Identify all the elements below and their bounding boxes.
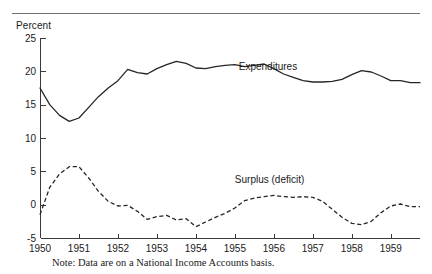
- series-annotation-label: Expenditures: [239, 61, 297, 72]
- y-tick-label: 25: [25, 33, 37, 44]
- chart-figure: Percent 2520151050-5 1950195119521953195…: [0, 0, 432, 274]
- series-line-surplus-deficit: [40, 167, 420, 227]
- x-tick-label: 1951: [68, 243, 91, 254]
- x-tick-label: 1956: [263, 243, 286, 254]
- x-tick-label: 1955: [224, 243, 247, 254]
- x-tick-label: 1954: [185, 243, 208, 254]
- y-tick-label: 10: [25, 133, 37, 144]
- x-tick-label: 1953: [146, 243, 169, 254]
- y-tick-label: 5: [30, 166, 36, 177]
- y-tick-label: 20: [25, 66, 37, 77]
- y-tick-label: -5: [27, 233, 36, 244]
- x-tick-label: 1957: [302, 243, 325, 254]
- x-axis-ticks: 1950195119521953195419551956195719581959: [29, 234, 402, 255]
- x-tick-label: 1958: [341, 243, 364, 254]
- series-annotation-label: Surplus (deficit): [235, 174, 304, 185]
- x-tick-label: 1950: [29, 243, 52, 254]
- y-axis-ticks: 2520151050-5: [25, 33, 46, 244]
- y-tick-label: 15: [25, 99, 37, 110]
- series-annotations: ExpendituresSurplus (deficit): [235, 61, 304, 185]
- y-tick-label: 0: [30, 199, 36, 210]
- chart-plot-area: 2520151050-5 195019511952195319541955195…: [0, 0, 432, 274]
- chart-note: Note: Data are on a National Income Acco…: [52, 257, 274, 268]
- series-line-expenditures: [40, 61, 420, 121]
- x-tick-label: 1959: [380, 243, 403, 254]
- x-tick-label: 1952: [107, 243, 130, 254]
